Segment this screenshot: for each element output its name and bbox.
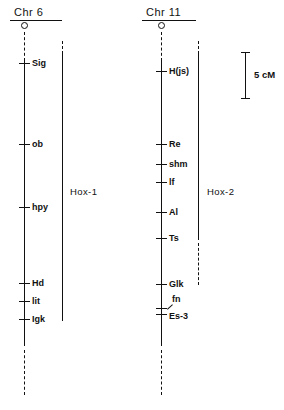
hox-bar-dashed-top-hox-1	[62, 41, 63, 54]
centromere-icon-chr11	[158, 22, 165, 29]
locus-label-hd: Hd	[32, 279, 44, 288]
chromosome-axis-dashed-top-chr11	[161, 32, 162, 61]
locus-label-ts: Ts	[169, 234, 179, 243]
chromosome-axis-dashed-top-chr6	[24, 32, 25, 61]
locus-label-lf: lf	[169, 178, 175, 187]
chromosome-axis-chr11	[161, 61, 162, 346]
locus-tick-lf	[156, 182, 167, 183]
locus-label-ob: ob	[32, 140, 43, 149]
chromosome-axis-chr6	[24, 61, 25, 346]
chromosome-title-chr11: Chr 11	[146, 6, 181, 18]
locus-tick-al	[156, 212, 167, 213]
locus-label-glk: Glk	[169, 280, 184, 289]
locus-tick-ob	[19, 144, 30, 145]
locus-label-igk: Igk	[32, 315, 45, 324]
locus-tick-shm	[156, 164, 167, 165]
scale-bar-cap-top	[241, 52, 250, 53]
locus-label-shm: shm	[169, 160, 188, 169]
chromosome-title-chr6: Chr 6	[14, 6, 43, 18]
locus-tick-glk	[156, 284, 167, 285]
locus-tick-hd	[19, 283, 30, 284]
locus-pointer-fn	[167, 304, 173, 309]
chromosome-axis-dashed-bottom-chr11	[161, 350, 162, 395]
locus-label-fn: fn	[172, 295, 181, 304]
locus-label-lit: lit	[32, 297, 40, 306]
locus-label-es-3: Es-3	[169, 312, 188, 321]
hox-bar-hox-2	[198, 54, 199, 240]
locus-tick-lit	[19, 301, 30, 302]
hox-bar-dashed-bottom-hox-2	[198, 243, 199, 285]
hox-bar-hox-1	[62, 54, 63, 321]
locus-tick-ts	[156, 238, 167, 239]
locus-label-al: Al	[169, 208, 178, 217]
locus-tick-es-3	[156, 314, 167, 315]
hox-cluster-label-hox-1: Hox-1	[70, 186, 97, 197]
hox-cluster-label-hox-2: Hox-2	[207, 186, 234, 197]
linkage-map-figure: Chr 6SigobhpyHdlitIgkHox-1Chr 11H(js)Res…	[0, 0, 284, 410]
locus-tick-re	[156, 144, 167, 145]
hox-bar-dashed-top-hox-2	[198, 41, 199, 54]
locus-tick-igk	[19, 319, 30, 320]
scale-bar-cap-bottom	[241, 98, 250, 99]
locus-label-re: Re	[169, 140, 181, 149]
chromosome-title-underline-chr11	[142, 20, 196, 21]
scale-bar-label: 5 cM	[254, 69, 275, 80]
locus-tick-h-js-	[156, 71, 167, 72]
locus-label-h-js-: H(js)	[169, 67, 189, 76]
scale-bar-line	[245, 52, 246, 98]
locus-tick-sig	[19, 63, 30, 64]
locus-tick-fn	[156, 308, 167, 309]
centromere-icon-chr6	[21, 22, 28, 29]
locus-tick-hpy	[19, 207, 30, 208]
chromosome-axis-dashed-bottom-chr6	[24, 350, 25, 395]
locus-label-sig: Sig	[32, 59, 46, 68]
chromosome-title-underline-chr6	[10, 20, 62, 21]
locus-label-hpy: hpy	[32, 203, 48, 212]
